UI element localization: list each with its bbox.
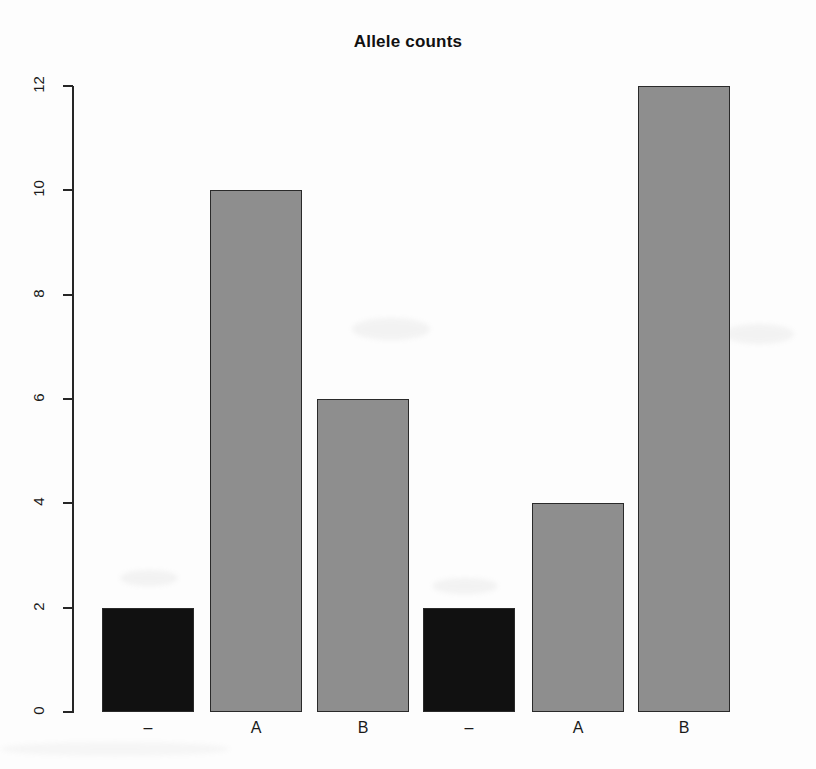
x-tick-label: – [102, 718, 194, 738]
scan-artifact [120, 570, 178, 586]
bar [102, 608, 194, 712]
x-tick-label: – [423, 718, 515, 738]
y-tick-label: 0 [30, 691, 47, 731]
scan-artifact [432, 578, 498, 594]
y-tick-label: 4 [30, 482, 47, 522]
chart-title: Allele counts [0, 32, 816, 52]
y-tick-label: 12 [30, 65, 47, 105]
bar [423, 608, 515, 712]
y-tick-mark [63, 189, 73, 191]
bar [532, 503, 624, 712]
x-tick-label: A [532, 718, 624, 738]
chart-figure: Allele counts 024681012 –AB–AB [0, 0, 816, 769]
y-tick-mark [63, 398, 73, 400]
scan-artifact [352, 318, 430, 340]
y-tick-label: 6 [30, 378, 47, 418]
x-tick-label: A [210, 718, 302, 738]
y-tick-mark [63, 85, 73, 87]
bar [210, 190, 302, 712]
y-tick-mark [63, 294, 73, 296]
y-tick-label: 8 [30, 273, 47, 313]
y-tick-mark [63, 607, 73, 609]
y-tick-mark [63, 502, 73, 504]
x-tick-label: B [317, 718, 409, 738]
y-axis-tick-labels: 024681012 [14, 0, 58, 769]
x-tick-label: B [638, 718, 730, 738]
y-tick-label: 10 [30, 169, 47, 209]
y-tick-label: 2 [30, 586, 47, 626]
bar [638, 86, 730, 712]
bar [317, 399, 409, 712]
y-tick-mark [63, 711, 73, 713]
scan-artifact [724, 324, 794, 344]
